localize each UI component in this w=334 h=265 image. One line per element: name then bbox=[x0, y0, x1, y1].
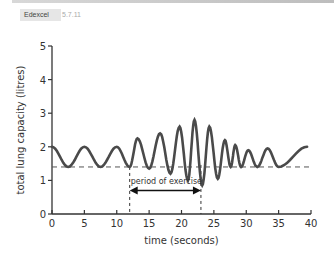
x-tick-label: 25 bbox=[208, 218, 221, 229]
y-axis-title: total lung capacity (litres) bbox=[15, 65, 26, 194]
y-tick-label: 5 bbox=[40, 41, 46, 52]
x-tick-label: 5 bbox=[81, 218, 87, 229]
y-tick-label: 4 bbox=[40, 75, 46, 86]
annotation-label: period of exercise bbox=[131, 177, 202, 186]
y-tick-label: 3 bbox=[40, 108, 46, 119]
x-tick-label: 40 bbox=[305, 218, 318, 229]
arrow-left-head-icon bbox=[130, 186, 138, 194]
x-tick-label: 20 bbox=[175, 218, 188, 229]
arrow-right-head-icon bbox=[193, 186, 201, 194]
lung-capacity-chart: 0123450510152025303540 time (seconds) to… bbox=[0, 0, 334, 265]
y-tick-label: 0 bbox=[40, 209, 46, 220]
x-axis-title: time (seconds) bbox=[144, 235, 219, 246]
x-tick-label: 0 bbox=[49, 218, 55, 229]
x-tick-label: 35 bbox=[272, 218, 285, 229]
x-tick-label: 10 bbox=[110, 218, 123, 229]
x-tick-label: 15 bbox=[143, 218, 156, 229]
y-tick-label: 2 bbox=[40, 142, 46, 153]
axes: 0123450510152025303540 bbox=[40, 41, 318, 229]
lung-capacity-line bbox=[52, 120, 307, 185]
x-tick-label: 30 bbox=[240, 218, 253, 229]
y-tick-label: 1 bbox=[40, 175, 46, 186]
